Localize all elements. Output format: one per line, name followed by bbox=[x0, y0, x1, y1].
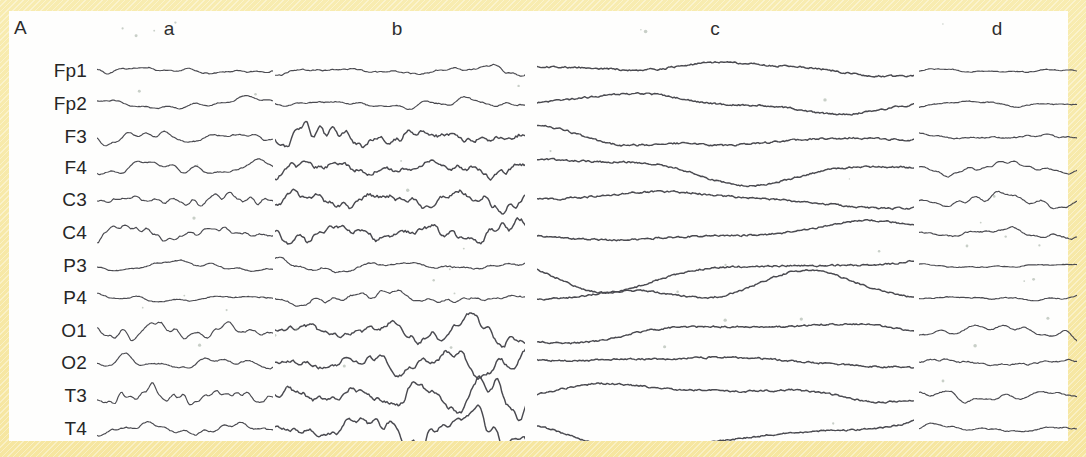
scan-speck bbox=[1038, 244, 1040, 246]
scan-speck bbox=[980, 222, 982, 224]
trace-d-p4 bbox=[919, 295, 1077, 301]
channel-label-p3: P3 bbox=[17, 255, 87, 277]
scan-speck bbox=[849, 178, 850, 179]
trace-a-c3 bbox=[97, 192, 273, 206]
eeg-segment-c bbox=[537, 11, 914, 441]
scan-speck bbox=[406, 189, 409, 192]
channel-label-f3: F3 bbox=[17, 126, 87, 148]
scan-speck bbox=[1004, 235, 1006, 237]
scan-speck bbox=[878, 250, 881, 253]
scan-speck bbox=[286, 387, 287, 388]
trace-b-t4 bbox=[275, 405, 525, 441]
trace-d-c3 bbox=[919, 191, 1077, 208]
trace-c-o1 bbox=[537, 324, 914, 344]
trace-b-f4 bbox=[275, 160, 525, 180]
trace-c-t3 bbox=[537, 383, 914, 403]
scan-speck bbox=[1046, 317, 1049, 320]
trace-a-p4 bbox=[97, 293, 273, 302]
trace-a-c4 bbox=[97, 225, 273, 243]
scan-speck bbox=[174, 21, 176, 23]
trace-b-fp1 bbox=[275, 64, 525, 76]
channel-label-t3: T3 bbox=[17, 385, 87, 407]
scan-speck bbox=[640, 29, 641, 30]
trace-d-f4 bbox=[919, 161, 1077, 177]
trace-a-f4 bbox=[97, 159, 273, 175]
trace-a-fp1 bbox=[97, 67, 273, 74]
trace-c-t4 bbox=[537, 420, 914, 441]
scan-speck bbox=[942, 380, 945, 383]
eeg-plate: A abcd Fp1Fp2F3F4C3C4P3P4O1O2T3T4 bbox=[9, 11, 1068, 441]
scan-speck bbox=[254, 93, 257, 96]
scan-speck bbox=[463, 248, 465, 250]
trace-d-fp1 bbox=[919, 69, 1077, 73]
trace-c-p4 bbox=[537, 270, 914, 300]
scan-speck bbox=[724, 319, 727, 322]
trace-b-f3 bbox=[275, 122, 525, 148]
scan-speck bbox=[142, 307, 144, 309]
scan-speck bbox=[966, 245, 969, 248]
scan-speck bbox=[1023, 280, 1025, 282]
trace-d-c4 bbox=[919, 227, 1077, 240]
scan-speck bbox=[153, 30, 155, 32]
trace-c-f4 bbox=[537, 158, 914, 186]
scan-speck bbox=[832, 422, 834, 424]
channel-label-fp2: Fp2 bbox=[17, 93, 87, 115]
trace-c-fp1 bbox=[537, 62, 914, 77]
scan-speck bbox=[1032, 278, 1035, 281]
trace-b-p4 bbox=[275, 290, 525, 306]
trace-a-o2 bbox=[97, 353, 273, 369]
scan-speck bbox=[226, 309, 228, 311]
scan-speck bbox=[973, 344, 977, 348]
scan-speck bbox=[192, 216, 195, 219]
eeg-figure: A abcd Fp1Fp2F3F4C3C4P3P4O1O2T3T4 bbox=[0, 0, 1086, 457]
trace-a-t4 bbox=[97, 422, 273, 437]
channel-label-t4: T4 bbox=[17, 418, 87, 440]
trace-a-p3 bbox=[97, 260, 273, 272]
scan-speck bbox=[197, 164, 199, 166]
scan-speck bbox=[449, 268, 451, 270]
scan-speck bbox=[724, 264, 726, 266]
trace-b-fp2 bbox=[275, 97, 525, 110]
trace-d-t4 bbox=[919, 423, 1077, 432]
trace-a-fp2 bbox=[97, 96, 273, 110]
channel-label-f4: F4 bbox=[17, 157, 87, 179]
trace-c-c3 bbox=[537, 191, 914, 210]
trace-d-f3 bbox=[919, 133, 1077, 139]
scan-speck bbox=[135, 34, 138, 37]
trace-c-f3 bbox=[537, 125, 914, 146]
channel-label-c4: C4 bbox=[17, 222, 87, 244]
scan-speck bbox=[433, 279, 435, 281]
trace-a-o1 bbox=[97, 322, 273, 341]
scan-speck bbox=[198, 344, 201, 347]
trace-b-c4 bbox=[275, 218, 525, 244]
trace-d-o1 bbox=[919, 325, 1077, 341]
channel-label-o2: O2 bbox=[17, 352, 87, 374]
panel-letter: A bbox=[14, 17, 27, 39]
trace-a-f3 bbox=[97, 131, 273, 146]
scan-speck bbox=[663, 345, 666, 348]
scan-speck bbox=[183, 295, 185, 297]
scan-speck bbox=[450, 346, 453, 349]
scan-speck bbox=[644, 30, 648, 34]
eeg-segment-d bbox=[919, 11, 1077, 441]
trace-c-o2 bbox=[537, 357, 914, 368]
channel-label-c3: C3 bbox=[17, 189, 87, 211]
scan-speck bbox=[454, 292, 456, 294]
scan-speck bbox=[823, 98, 826, 101]
trace-b-o2 bbox=[275, 349, 525, 379]
scan-speck bbox=[993, 195, 996, 198]
trace-d-p3 bbox=[919, 264, 1077, 268]
scan-speck bbox=[343, 364, 346, 367]
scan-speck bbox=[295, 328, 298, 331]
channel-label-o1: O1 bbox=[17, 320, 87, 342]
scan-speck bbox=[800, 317, 803, 320]
trace-b-c3 bbox=[275, 189, 525, 214]
channel-label-fp1: Fp1 bbox=[17, 60, 87, 82]
scan-speck bbox=[676, 290, 679, 293]
trace-c-fp2 bbox=[537, 93, 914, 115]
channel-label-p4: P4 bbox=[17, 287, 87, 309]
trace-a-t3 bbox=[97, 383, 273, 405]
eeg-segment-b bbox=[275, 11, 525, 441]
trace-d-t3 bbox=[919, 391, 1077, 403]
scan-speck bbox=[549, 150, 551, 152]
